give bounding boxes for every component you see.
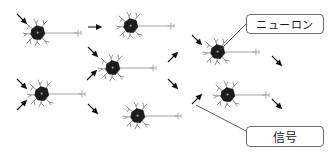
signal-arrow — [270, 97, 285, 112]
neuron-group — [23, 12, 269, 129]
neuron-top-left — [23, 19, 81, 46]
signal-arrow — [166, 50, 181, 65]
neuron-mid-left — [27, 80, 85, 107]
signal-arrow — [270, 54, 285, 69]
neuron-mid-right — [213, 81, 269, 108]
signal-arrow — [190, 33, 205, 48]
signal-arrow — [85, 68, 100, 83]
neuron-top-center — [116, 12, 174, 39]
callout-leader-signal — [196, 105, 246, 131]
neuron-top-right — [203, 38, 259, 65]
callout-leader-neuron — [220, 24, 246, 50]
callout-label-neuron: ニューロン — [246, 14, 324, 34]
signal-arrow-group — [15, 12, 285, 117]
signal-arrow — [15, 98, 30, 113]
signal-arrow — [88, 24, 102, 30]
signal-arrow-labeled — [190, 92, 205, 107]
callout-label-signal: 信号 — [246, 126, 324, 147]
signal-arrow — [86, 45, 101, 60]
callout-neuron-text: ニューロン — [256, 16, 314, 32]
diagram-canvas: ニューロン 信号 — [0, 0, 330, 158]
neuron-mid-center — [98, 54, 156, 81]
signal-arrow — [166, 77, 181, 92]
neuron-bottom-center — [123, 102, 181, 129]
signal-arrow — [86, 102, 101, 117]
signal-arrow — [15, 77, 30, 92]
callout-signal-text: 信号 — [273, 128, 298, 145]
